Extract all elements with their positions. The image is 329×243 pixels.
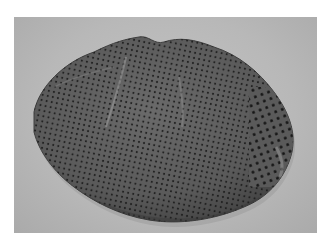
photo-frame — [14, 17, 317, 233]
fossil-specimen — [14, 17, 317, 233]
